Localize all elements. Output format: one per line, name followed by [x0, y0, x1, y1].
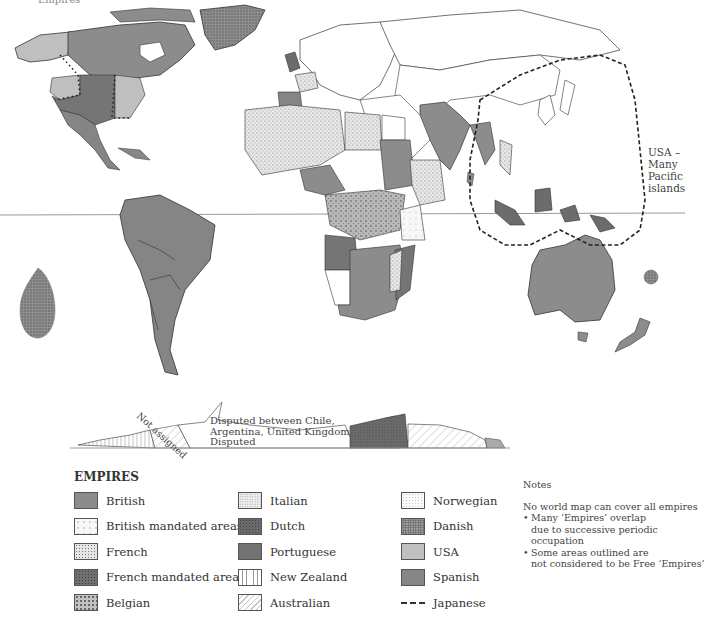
antarctica-nz-section	[78, 430, 155, 448]
legend-column-1: British British mandated areas French Fr…	[74, 488, 245, 616]
region-burma-british	[470, 122, 495, 165]
legend-label: Belgian	[106, 596, 150, 610]
antarctica-disputed-label: Disputed between Chile, Argentina, Unite…	[210, 416, 350, 448]
legend-label: Danish	[433, 519, 473, 533]
region-south-america	[120, 195, 215, 375]
legend-item-french-mandated: French mandated areas	[74, 565, 245, 590]
notes-bullet-line: Some areas outlined are	[531, 547, 713, 559]
legend-label: New Zealand	[270, 570, 347, 584]
legend-column-3: Norwegian Danish USA Spanish Japanese	[401, 488, 497, 616]
legend-item-japanese: Japanese	[401, 590, 497, 615]
norwegian-swatch	[401, 492, 425, 509]
british-mandated-swatch	[74, 518, 98, 535]
legend-title: EMPIRES	[74, 470, 139, 484]
legend-item-norwegian: Norwegian	[401, 488, 497, 513]
antarctica-australian-section	[408, 424, 487, 448]
legend-item-danish: Danish	[401, 514, 497, 539]
notes-panel: Notes No world map can cover all empires…	[523, 479, 713, 570]
legend-item-italian: Italian	[238, 488, 347, 513]
usa-pacific-annotation: USA – Many Pacific islands	[648, 146, 713, 194]
notes-title: Notes	[523, 479, 713, 491]
notes-list: Many ‘Empires’ overlap due to successive…	[523, 512, 713, 570]
italian-swatch	[238, 492, 262, 509]
usa-pacific-line-3: islands	[648, 182, 713, 194]
region-canada-british	[68, 22, 195, 80]
region-madagascar-french	[390, 250, 402, 292]
portuguese-swatch	[238, 543, 262, 560]
region-egypt	[382, 115, 405, 140]
region-sw-africa	[325, 270, 350, 305]
map-title: Empires	[38, 0, 80, 5]
legend-label: British	[106, 494, 145, 508]
legend-label: French mandated areas	[106, 570, 245, 584]
notes-bullet-line: due to successive periodic occupation	[531, 524, 713, 547]
notes-intro: No world map can cover all empires	[523, 501, 713, 513]
legend-label: Japanese	[433, 596, 486, 610]
notes-bullet-line: not considered to be Free ‘Empires’	[531, 558, 713, 570]
region-tasmania	[578, 332, 588, 342]
region-australia-british	[528, 235, 615, 322]
region-west-africa-british	[300, 165, 345, 195]
legend-item-british: British	[74, 488, 245, 513]
legend-item-belgian: Belgian	[74, 590, 245, 615]
french-mandated-swatch	[74, 569, 98, 586]
legend-item-usa: USA	[401, 539, 497, 564]
usa-swatch	[401, 543, 425, 560]
antarctica-french-mandated	[350, 414, 408, 448]
new-zealand-swatch	[238, 569, 262, 586]
antarctica-disputed-line-1: Disputed between Chile,	[210, 416, 350, 427]
region-central-africa	[325, 190, 405, 240]
region-uk-british	[285, 52, 300, 72]
antarctica-small-sections	[485, 438, 505, 448]
legend-item-french: French	[74, 539, 245, 564]
region-greenland-danish	[200, 5, 265, 50]
legend-item-british-mandated: British mandated areas	[74, 514, 245, 539]
world-map	[0, 0, 713, 460]
legend-item-new-zealand: New Zealand	[238, 565, 347, 590]
legend-label: Dutch	[270, 519, 305, 533]
region-france	[295, 72, 318, 92]
region-pacific-island	[644, 270, 658, 284]
usa-pacific-line-2: Many Pacific	[648, 158, 713, 182]
australian-swatch	[238, 594, 262, 611]
legend-label: Spanish	[433, 570, 480, 584]
region-africa-nw-french	[245, 105, 345, 175]
region-alaska-usa	[15, 32, 70, 62]
usa-pacific-line-1: USA –	[648, 146, 713, 158]
french-swatch	[74, 543, 98, 560]
legend-label: USA	[433, 545, 459, 559]
legend-label: British mandated areas	[106, 519, 243, 533]
legend-item-dutch: Dutch	[238, 514, 347, 539]
region-east-africa-mandated	[400, 205, 425, 240]
legend-item-australian: Australian	[238, 590, 347, 615]
legend-item-spanish: Spanish	[401, 565, 497, 590]
region-new-zealand	[615, 318, 650, 352]
region-ethiopia-italian	[410, 160, 445, 205]
notes-bullet-line: Many ‘Empires’ overlap	[531, 512, 713, 524]
region-caribbean	[118, 148, 150, 160]
legend-label: Australian	[270, 596, 330, 610]
legend-label: Portuguese	[270, 545, 336, 559]
region-indochina-french	[500, 140, 512, 175]
british-swatch	[74, 492, 98, 509]
legend-label: Norwegian	[433, 494, 497, 508]
legend-item-portuguese: Portuguese	[238, 539, 347, 564]
notes-bullet: Some areas outlined are not considered t…	[523, 547, 713, 570]
spanish-swatch	[401, 569, 425, 586]
region-usa-east	[115, 75, 145, 118]
legend-label: Italian	[270, 494, 308, 508]
notes-bullet: Many ‘Empires’ overlap due to successive…	[523, 512, 713, 547]
danish-swatch	[401, 518, 425, 535]
region-dutch-east-indies	[495, 188, 615, 232]
belgian-swatch	[74, 594, 98, 611]
region-libya-italian	[345, 112, 382, 150]
dutch-swatch	[238, 518, 262, 535]
legend-column-2: Italian Dutch Portuguese New Zealand Aus…	[238, 488, 347, 616]
legend-label: French	[106, 545, 148, 559]
region-sudan-british	[380, 140, 415, 190]
region-island-left	[20, 268, 55, 338]
region-arctic-islands	[110, 8, 195, 22]
japanese-dashed-line-icon	[401, 602, 425, 604]
antarctica-disputed-line-3: Disputed	[210, 437, 350, 448]
